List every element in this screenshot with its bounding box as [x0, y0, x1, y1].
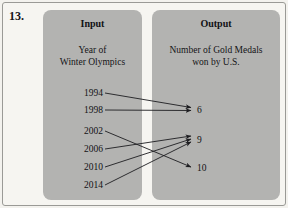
output-subtitle-line-2: won by U.S.: [152, 56, 280, 68]
output-item-6: 6: [197, 105, 202, 115]
problem-number: 13.: [9, 9, 24, 24]
output-panel: Output Number of Gold Medals won by U.S.: [152, 10, 280, 200]
input-item-2006: 2006: [55, 144, 103, 154]
input-item-2010: 2010: [55, 162, 103, 172]
input-panel-title: Input: [43, 18, 142, 29]
output-panel-subtitle: Number of Gold Medals won by U.S.: [152, 44, 280, 68]
input-item-2014: 2014: [55, 180, 103, 190]
output-panel-title: Output: [152, 18, 280, 29]
input-item-2002: 2002: [55, 126, 103, 136]
input-item-1994: 1994: [55, 88, 103, 98]
input-panel-subtitle: Year of Winter Olympics: [43, 44, 142, 68]
input-subtitle-line-1: Year of: [43, 44, 142, 56]
output-item-9: 9: [197, 135, 202, 145]
input-item-1998: 1998: [55, 105, 103, 115]
output-item-10: 10: [197, 163, 207, 173]
worksheet-problem: 13. Input Year of Winter Olympics Output…: [0, 0, 288, 208]
output-subtitle-line-1: Number of Gold Medals: [152, 44, 280, 56]
input-subtitle-line-2: Winter Olympics: [43, 56, 142, 68]
